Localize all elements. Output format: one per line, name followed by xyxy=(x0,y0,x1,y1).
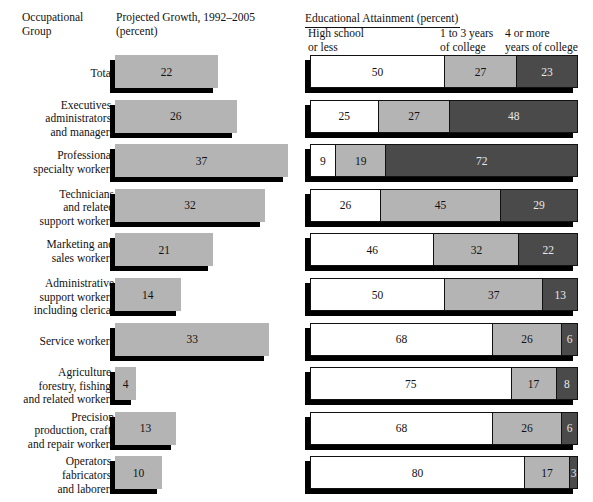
attainment-segment-some-college: 26 xyxy=(492,413,561,444)
attainment-segment-four-plus-college: 23 xyxy=(516,56,577,87)
occupational-group-label: Professional specialty workers xyxy=(4,150,114,177)
growth-bar-value: 21 xyxy=(158,244,170,256)
growth-bar: 4 xyxy=(115,367,136,400)
attainment-segment-some-college: 37 xyxy=(444,279,542,310)
attainment-segment-value: 17 xyxy=(541,467,553,479)
attainment-segment-some-college: 26 xyxy=(492,324,561,355)
growth-bar-group: 4 xyxy=(115,367,136,403)
attainment-segment-four-plus-college: 72 xyxy=(385,145,577,176)
projected-growth-header: Projected Growth, 1992–2005 (percent) xyxy=(116,10,296,38)
attainment-segment-four-plus-college: 3 xyxy=(569,457,577,488)
attainment-bar-group: 503713 xyxy=(310,278,578,314)
attainment-segment-four-plus-college: 13 xyxy=(542,279,577,310)
growth-bar: 26 xyxy=(115,100,237,133)
attainment-stacked-bar: 91972 xyxy=(310,144,578,177)
attainment-segment-some-college: 45 xyxy=(380,190,500,221)
occupational-group-label: Technicians and related support workers xyxy=(4,187,114,228)
chart-row: Precision production, craft, and repair … xyxy=(0,409,593,453)
occupational-group-label: Agriculture, forestry, fishing, and rela… xyxy=(4,366,114,407)
attainment-bar-group: 502723 xyxy=(310,55,578,91)
growth-bar: 37 xyxy=(115,144,288,177)
attainment-segment-four-plus-college: 29 xyxy=(500,190,577,221)
occupational-group-header-line2: Group xyxy=(22,24,112,38)
growth-bar-group: 26 xyxy=(115,100,237,136)
attainment-segment-value: 3 xyxy=(571,467,577,479)
occupational-group-header: Occupational Group xyxy=(22,10,112,38)
column-header-four-plus-college-line1: 4 or more xyxy=(505,27,593,41)
attainment-segment-value: 29 xyxy=(533,199,545,211)
growth-bar: 13 xyxy=(115,412,176,445)
attainment-segment-value: 68 xyxy=(396,422,408,434)
growth-bar: 33 xyxy=(115,323,269,356)
attainment-segment-four-plus-college: 6 xyxy=(561,324,577,355)
attainment-bar-group: 463222 xyxy=(310,233,578,269)
occupational-group-label: Executives, administrators, and managers xyxy=(4,98,114,139)
attainment-segment-some-college: 27 xyxy=(444,56,516,87)
attainment-stacked-bar: 264529 xyxy=(310,189,578,222)
attainment-stacked-bar: 68266 xyxy=(310,412,578,445)
chart-row: Technicians and related support workers3… xyxy=(0,186,593,230)
attainment-segment-four-plus-college: 6 xyxy=(561,413,577,444)
occupational-group-label: Marketing and sales workers xyxy=(4,239,114,266)
growth-bar: 22 xyxy=(115,55,218,88)
attainment-segment-value: 68 xyxy=(396,333,408,345)
occupational-group-header-line1: Occupational xyxy=(22,10,112,24)
attainment-stacked-bar: 80173 xyxy=(310,456,578,489)
attainment-stacked-bar: 252748 xyxy=(310,100,578,133)
attainment-segment-value: 9 xyxy=(320,155,326,167)
attainment-segment-value: 32 xyxy=(471,244,483,256)
attainment-stacked-bar: 463222 xyxy=(310,233,578,266)
educational-attainment-header: Educational Attainment (percent) xyxy=(305,8,590,28)
attainment-stacked-bar: 68266 xyxy=(310,323,578,356)
attainment-segment-some-college: 32 xyxy=(433,234,518,265)
attainment-segment-value: 45 xyxy=(435,199,447,211)
attainment-segment-value: 27 xyxy=(475,66,487,78)
attainment-segment-value: 48 xyxy=(508,110,520,122)
attainment-segment-high-school: 9 xyxy=(311,145,335,176)
growth-bar-value: 37 xyxy=(196,155,208,167)
growth-bar-group: 13 xyxy=(115,412,176,448)
projected-growth-header-line1: Projected Growth, 1992–2005 xyxy=(116,10,296,24)
attainment-stacked-bar: 502723 xyxy=(310,55,578,88)
column-header-high-school: High school or less xyxy=(308,27,428,54)
attainment-segment-value: 80 xyxy=(412,467,424,479)
attainment-segment-value: 19 xyxy=(355,155,367,167)
attainment-segment-four-plus-college: 22 xyxy=(518,234,577,265)
projected-growth-header-line2: (percent) xyxy=(116,24,296,38)
attainment-bar-group: 80173 xyxy=(310,456,578,492)
attainment-segment-value: 27 xyxy=(408,110,420,122)
attainment-bar-group: 75178 xyxy=(310,367,578,403)
attainment-segment-value: 6 xyxy=(567,422,573,434)
growth-bar-group: 22 xyxy=(115,55,218,91)
chart-root: Occupational Group Projected Growth, 199… xyxy=(0,0,593,502)
attainment-segment-value: 50 xyxy=(372,66,384,78)
attainment-segment-high-school: 75 xyxy=(311,368,511,399)
column-header-high-school-line1: High school xyxy=(308,27,428,41)
chart-row: Operators, fabricators, and laborers1080… xyxy=(0,453,593,497)
growth-bar: 14 xyxy=(115,278,181,311)
occupational-group-label: Service workers xyxy=(4,335,114,349)
growth-bar-group: 10 xyxy=(115,456,162,492)
chart-row: Agriculture, forestry, fishing, and rela… xyxy=(0,364,593,408)
attainment-stacked-bar: 75178 xyxy=(310,367,578,400)
growth-bar: 21 xyxy=(115,233,213,266)
attainment-segment-some-college: 27 xyxy=(378,101,450,132)
attainment-segment-some-college: 17 xyxy=(524,457,569,488)
growth-bar-group: 37 xyxy=(115,144,288,180)
attainment-bar-group: 264529 xyxy=(310,189,578,225)
attainment-segment-value: 25 xyxy=(339,110,351,122)
attainment-bar-group: 68266 xyxy=(310,323,578,359)
growth-bar-group: 32 xyxy=(115,189,265,225)
growth-bar-value: 32 xyxy=(184,199,196,211)
chart-row: Executives, administrators, and managers… xyxy=(0,97,593,141)
chart-row: Administrative support workers including… xyxy=(0,275,593,319)
attainment-segment-some-college: 19 xyxy=(335,145,386,176)
chart-row: Professional specialty workers3791972 xyxy=(0,141,593,185)
growth-bar-value: 14 xyxy=(142,289,154,301)
attainment-segment-high-school: 68 xyxy=(311,324,492,355)
occupational-group-label: Operators, fabricators, and laborers xyxy=(4,455,114,496)
growth-bar-group: 21 xyxy=(115,233,213,269)
chart-row: Total22502723 xyxy=(0,52,593,96)
growth-bar-value: 13 xyxy=(140,422,152,434)
attainment-segment-high-school: 50 xyxy=(311,56,444,87)
